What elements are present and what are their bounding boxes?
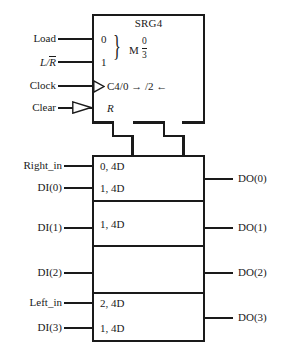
cell-qualifier-di-3: 1, 4D: [100, 322, 124, 334]
wire-right-in: [64, 165, 92, 167]
control-block-bottom-edge: [92, 121, 205, 157]
input-label-di-0: DI(0): [0, 182, 62, 193]
input-label-l-r: L/R: [0, 56, 56, 69]
input-label-clock: Clock: [0, 80, 56, 91]
wire-do-0: [205, 178, 233, 180]
input-label-left-in: Left_in: [0, 297, 62, 308]
mode-qualifier-0: 0: [101, 33, 107, 45]
mode-qualifier-1: 1: [101, 56, 107, 68]
input-label-right-in: Right_in: [0, 160, 62, 171]
cell-qualifier-di-1: 1, 4D: [100, 218, 124, 230]
cell-qualifier-right-in: 0, 4D: [100, 160, 124, 172]
input-label-di-3: DI(3): [0, 322, 62, 333]
wire-do-3: [205, 317, 233, 319]
output-label-do-0: DO(0): [238, 173, 267, 184]
wire-do-2: [205, 272, 233, 274]
array-divider-3: [92, 292, 205, 294]
input-label-r-overbar: R: [49, 56, 56, 69]
input-label-di-2: DI(2): [0, 267, 62, 278]
wire-di-0: [64, 187, 92, 189]
mode-range-fraction: 0 3: [142, 36, 147, 61]
wire-load: [58, 38, 92, 40]
polarity-indicator-icon: [72, 101, 92, 114]
output-label-do-3: DO(3): [238, 312, 267, 323]
output-label-do-1: DO(1): [238, 222, 267, 233]
control-block-title: SRG4: [92, 17, 205, 29]
wire-l-r: [58, 61, 92, 63]
mode-range-denominator: 3: [142, 50, 147, 61]
shift-register-diagram: SRG4 Load L/R 0 1 } M 0 3 Clock C4/0 → /…: [0, 0, 286, 356]
array-divider-1: [92, 200, 205, 202]
wire-di-3: [64, 327, 92, 329]
cell-qualifier-di-0: 1, 4D: [100, 182, 124, 194]
clock-qualifier: C4/0 → /2 ←: [107, 80, 167, 92]
dynamic-indicator-icon: [93, 80, 105, 93]
input-label-clear: Clear: [0, 102, 56, 113]
wire-di-1: [64, 227, 92, 229]
wire-clock: [58, 85, 92, 87]
mode-letter: M: [129, 44, 139, 56]
input-label-load: Load: [0, 33, 56, 44]
wire-di-2: [64, 272, 92, 274]
wire-do-1: [205, 227, 233, 229]
wire-left-in: [64, 302, 92, 304]
mode-brace: }: [113, 30, 121, 60]
fraction-bar: [142, 48, 147, 49]
output-label-do-2: DO(2): [238, 267, 267, 278]
input-label-l-r-text: L/: [40, 56, 49, 68]
cell-qualifier-left-in: 2, 4D: [100, 297, 124, 309]
mode-range-numerator: 0: [142, 36, 147, 47]
clear-qualifier: R: [107, 102, 114, 114]
input-label-di-1: DI(1): [0, 222, 62, 233]
array-divider-2: [92, 245, 205, 247]
